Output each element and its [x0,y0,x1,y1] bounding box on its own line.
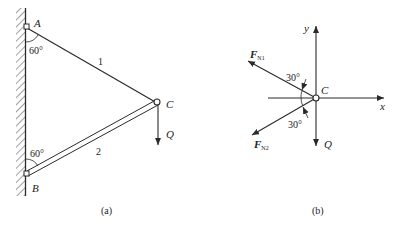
label-y-axis: y [303,22,309,34]
angle-arc-a [26,35,38,42]
fn2-subscript: N2 [261,145,268,151]
figure-b: y x C Q 30° 30° FN1 FN2 (b) [248,22,385,217]
support-b [24,171,29,176]
force-fn2-arrow [252,98,316,135]
member-2 [27,100,158,176]
caption-b: (b) [312,205,324,217]
label-c: C [166,98,174,110]
support-a [24,24,29,29]
caption-a: (a) [101,205,112,217]
angle-arc-upper [301,91,302,98]
label-x-axis: x [379,100,385,112]
label-q: Q [166,128,174,140]
fn1-subscript: N1 [257,55,264,61]
angle-pointer-lower [303,107,308,118]
label-b: B [32,182,39,194]
statics-diagram: A 60° 1 C Q 60° 2 B (a) y x C Q 30° 30° … [0,0,396,229]
member-1 [27,28,157,103]
angle-pointer-upper [302,79,306,90]
wall-hatching [16,8,25,196]
label-member-1: 1 [98,56,103,67]
label-angle-upper: 30° [286,72,300,83]
label-node-c: C [321,84,329,96]
figure-a: A 60° 1 C Q 60° 2 B (a) [16,8,174,217]
angle-arc-b [26,159,38,166]
label-fn2: FN2 [253,138,269,151]
angle-arc-lower [301,98,303,106]
label-fn1: FN1 [249,48,265,61]
node-c [313,95,319,101]
label-q-b: Q [324,138,332,150]
label-angle-a: 60° [29,45,43,56]
joint-c [154,99,160,105]
label-angle-b: 60° [30,148,44,159]
label-angle-lower: 30° [288,119,302,130]
label-member-2: 2 [96,146,101,157]
label-a: A [33,17,41,29]
